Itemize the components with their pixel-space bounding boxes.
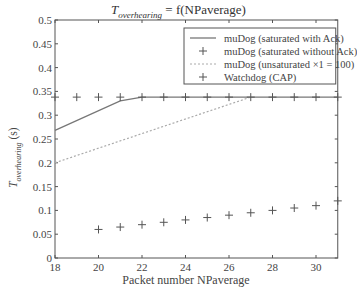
series-marker-3 — [290, 93, 298, 101]
y-tick-label: 0.05 — [33, 228, 53, 240]
x-tick-label: 22 — [137, 261, 148, 273]
x-tick-label: 28 — [267, 261, 279, 273]
y-tick-label: 0.2 — [38, 157, 52, 169]
x-tick-label: 30 — [311, 261, 323, 273]
series-marker-3 — [73, 93, 81, 101]
series-marker-3 — [138, 93, 146, 101]
series-marker-1 — [312, 202, 320, 210]
legend-entry-label: muDog (saturated without Ack) — [224, 46, 357, 58]
series-marker-1 — [116, 223, 124, 231]
x-tick-label: 24 — [180, 261, 192, 273]
series-marker-1 — [334, 197, 342, 205]
series-marker-3 — [247, 93, 255, 101]
series-marker-3 — [51, 93, 59, 101]
series-marker-1 — [269, 206, 277, 214]
x-tick-label: 26 — [224, 261, 236, 273]
series-marker-3 — [334, 93, 342, 101]
legend-entry-label: Watchdog (CAP) — [224, 72, 297, 84]
series-marker-1 — [203, 214, 211, 222]
y-tick-label: 0.25 — [33, 133, 53, 145]
series-marker-3 — [203, 93, 211, 101]
series-marker-1 — [138, 221, 146, 229]
y-tick-label: 0.15 — [33, 181, 53, 193]
series-marker-1 — [290, 204, 298, 212]
series-marker-3 — [95, 93, 103, 101]
series-line-0 — [55, 97, 338, 130]
legend-entry-label: muDog (saturated with Ack) — [224, 33, 344, 45]
series-marker-1 — [225, 211, 233, 219]
series-marker-3 — [225, 93, 233, 101]
series-marker-3 — [160, 93, 168, 101]
y-tick-label: 0 — [47, 252, 53, 264]
series-marker-3 — [182, 93, 190, 101]
x-tick-label: 20 — [93, 261, 105, 273]
series-marker-1 — [95, 225, 103, 233]
y-tick-label: 0.3 — [38, 109, 52, 121]
plot-area: 1820222426283000.050.10.150.20.250.30.35… — [0, 0, 357, 302]
y-tick-label: 0.5 — [38, 14, 52, 26]
series-marker-1 — [182, 216, 190, 224]
series-marker-3 — [312, 93, 320, 101]
y-tick-label: 0.4 — [38, 62, 52, 74]
series-marker-1 — [160, 218, 168, 226]
y-tick-label: 0.35 — [33, 85, 53, 97]
legend-entry-label: muDog (unsaturated ×1 = 100) — [224, 59, 355, 71]
y-tick-label: 0.45 — [33, 38, 53, 50]
series-marker-3 — [269, 93, 277, 101]
series-marker-1 — [247, 209, 255, 217]
y-tick-label: 0.1 — [38, 204, 52, 216]
series-line-2 — [55, 97, 251, 163]
